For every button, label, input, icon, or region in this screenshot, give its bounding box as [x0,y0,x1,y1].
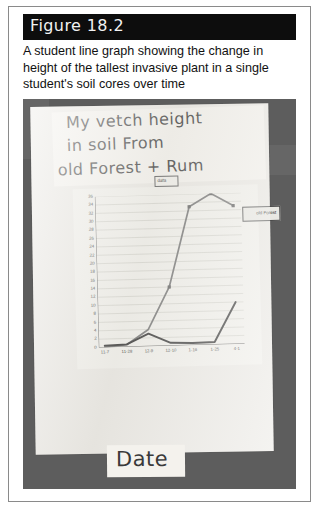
x-axis-tick: 11-28 [116,349,138,355]
handwritten-title-line-2: in soil From [67,133,165,155]
figure-banner: Figure 18.2 [23,14,296,40]
y-axis-tick: 30 [77,220,93,225]
y-axis-tick: 32 [77,211,93,216]
chart-data-tag: data [154,175,178,187]
y-axis-tick: 18 [79,270,95,275]
chart-plot-area [95,193,245,348]
y-axis-tick: 6 [80,320,96,325]
student-poster: My vetch height in soil From old Forest … [30,103,273,455]
x-axis-tick: 1-16 [182,347,204,353]
y-axis-tick: 12 [79,295,95,300]
chart-data-tag-label: data [157,177,166,185]
y-axis-tick: 16 [79,278,95,283]
handwritten-x-axis-label: Date [116,447,168,471]
y-axis-tick: 34 [77,203,93,208]
handwritten-title: My vetch height in soil From old Forest … [52,105,266,186]
handwritten-title-line-1: My vetch height [66,108,203,132]
x-axis-tick: 12-10 [160,347,182,353]
figure-caption: A student line graph showing the change … [23,43,295,93]
x-axis-tick: 1-25 [204,346,226,352]
x-axis-tick-labels: 11-711-2812-912-101-161-254-1 [99,346,245,360]
y-axis-tick: 36 [77,194,93,199]
y-axis-tick: 14 [79,287,95,292]
y-axis-tick-labels: 363432302826242220181614121086420 [73,197,97,348]
chart-svg [95,193,245,348]
y-axis-tick: 28 [78,228,94,233]
chart-legend: old Forest [242,206,280,222]
figure-photograph: My vetch height in soil From old Forest … [23,99,296,489]
handwritten-title-line-3: old Forest + Rum [57,155,204,179]
y-axis-tick: 4 [80,329,96,334]
line-graph-sheet: data old Forest 363432302826242220181614… [73,184,263,369]
y-axis-tick: 20 [79,262,95,267]
y-axis-tick: 24 [78,245,94,250]
y-axis-tick: 26 [78,236,94,241]
figure-inner: Figure 18.2 A student line graph showing… [14,11,305,497]
figure-number-label: Figure 18.2 [30,16,124,35]
y-axis-tick: 8 [80,312,96,317]
x-axis-tick: 4-1 [226,346,248,352]
x-axis-tick: 12-9 [138,348,160,354]
y-axis-tick: 10 [80,304,96,309]
chart-legend-label: old Forest [256,210,276,216]
y-axis-tick: 22 [78,253,94,258]
x-axis-tick: 11-7 [94,349,116,355]
y-axis-tick: 2 [81,337,97,342]
handwritten-x-axis-label-strip: Date [107,445,185,478]
figure-card: Figure 18.2 A student line graph showing… [8,6,311,502]
